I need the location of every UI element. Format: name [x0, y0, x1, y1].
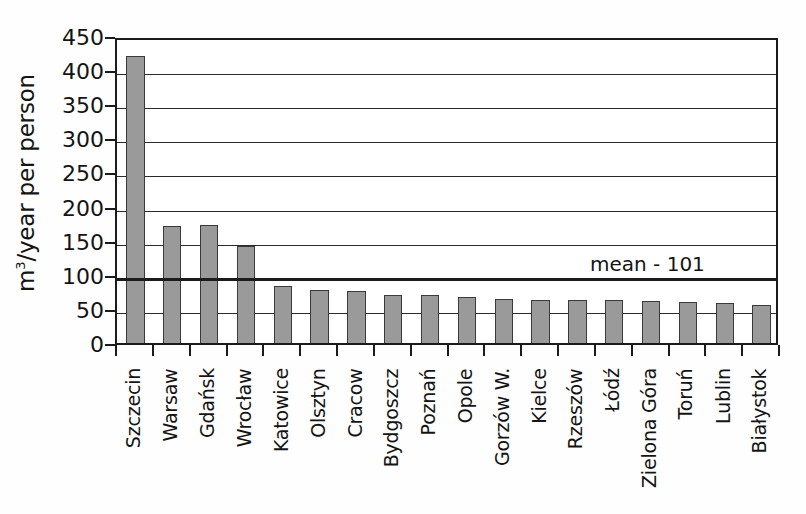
y-axis-tick-mark: [105, 105, 115, 107]
bar: [605, 300, 623, 343]
y-axis-tick-label: 0: [44, 334, 104, 356]
x-axis-category-label-text: Bydgoszcz: [380, 368, 402, 467]
y-axis-title-text: m3/year per person: [13, 74, 39, 292]
mean-line: [117, 278, 776, 281]
y-axis-tick-mark: [105, 71, 115, 73]
x-axis-tick-mark: [668, 345, 670, 356]
x-axis-category-label-text: Gorzów W.: [491, 368, 513, 466]
bar: [679, 302, 697, 343]
x-axis-category-label-text: Białystok: [749, 368, 771, 453]
y-axis-tick-label: 400: [44, 61, 104, 83]
y-axis-tick-mark: [105, 37, 115, 39]
x-axis-category-label: Opole: [447, 357, 484, 507]
y-axis-tick-label: 300: [44, 129, 104, 151]
x-axis-tick-mark: [447, 345, 449, 356]
x-axis-category-label: Cracow: [336, 357, 373, 507]
x-axis-category-label-text: Zielona Góra: [638, 368, 660, 488]
y-axis-tick-label: 150: [44, 232, 104, 254]
x-axis-tick-mark: [741, 345, 743, 356]
y-axis-title: m3/year per person: [6, 18, 46, 348]
x-axis-category-label: Gorzów W.: [483, 357, 520, 507]
y-axis-tick-label: 350: [44, 95, 104, 117]
x-axis-tick-marks: [115, 345, 778, 357]
x-axis-category-label: Katowice: [262, 357, 299, 507]
bar: [495, 299, 513, 343]
x-axis-category-label-text: Opole: [454, 368, 476, 423]
x-axis-tick-mark: [299, 345, 301, 356]
bar: [568, 300, 586, 343]
x-axis-tick-mark: [373, 345, 375, 356]
x-axis-tick-mark: [152, 345, 154, 356]
x-axis-category-label-text: Kielce: [528, 368, 550, 424]
x-axis-tick-mark: [520, 345, 522, 356]
bar: [458, 297, 476, 343]
bar: [384, 295, 402, 343]
bars-layer: [117, 40, 776, 343]
bar: [752, 305, 770, 343]
x-axis-category-label: Białystok: [741, 357, 778, 507]
bar: [347, 291, 365, 343]
x-axis-category-label: Zielona Góra: [631, 357, 668, 507]
x-axis-category-label-text: Lublin: [712, 368, 734, 424]
y-axis-title-prefix: m: [13, 270, 39, 292]
y-axis-tick-labels: 050100150200250300350400450: [44, 0, 104, 514]
x-axis-category-label-text: Warsaw: [159, 368, 181, 441]
y-axis-tick-mark: [105, 310, 115, 312]
x-axis-tick-mark: [189, 345, 191, 356]
x-axis-category-label: Olsztyn: [299, 357, 336, 507]
x-axis-category-label: Poznań: [410, 357, 447, 507]
y-axis-tick-mark: [105, 276, 115, 278]
y-axis-tick-label: 450: [44, 27, 104, 49]
bar: [237, 246, 255, 343]
bar: [716, 303, 734, 343]
x-axis-category-label: Gdańsk: [189, 357, 226, 507]
x-axis-tick-mark: [557, 345, 559, 356]
bar-chart: m3/year per person 050100150200250300350…: [0, 0, 806, 514]
y-axis-tick-label: 250: [44, 163, 104, 185]
y-axis-tick-label: 50: [44, 300, 104, 322]
x-axis-tick-mark: [483, 345, 485, 356]
x-axis-category-label-text: Gdańsk: [196, 368, 218, 438]
x-axis-category-label: Kielce: [520, 357, 557, 507]
x-axis-category-label: Łódź: [594, 357, 631, 507]
x-axis-category-label-text: Olsztyn: [307, 368, 329, 437]
bar: [126, 56, 144, 343]
y-axis-tick-mark: [105, 242, 115, 244]
bar: [421, 295, 439, 343]
x-axis-tick-mark: [336, 345, 338, 356]
y-axis-tick-mark: [105, 173, 115, 175]
x-axis-tick-mark: [631, 345, 633, 356]
x-axis-tick-mark: [778, 345, 780, 356]
y-axis-tick-mark: [105, 139, 115, 141]
bar: [200, 225, 218, 343]
x-axis-category-label: Rzeszów: [557, 357, 594, 507]
x-axis-category-label-text: Cracow: [343, 368, 365, 437]
bar: [310, 290, 328, 343]
bar: [642, 301, 660, 343]
plot-area: mean - 101: [115, 38, 778, 345]
mean-line-label: mean - 101: [590, 252, 705, 276]
x-axis-category-label: Lublin: [704, 357, 741, 507]
x-axis-category-label: Bydgoszcz: [373, 357, 410, 507]
x-axis-tick-mark: [115, 345, 117, 356]
x-axis-category-label: Wrocław: [226, 357, 263, 507]
x-axis-category-label: Warsaw: [152, 357, 189, 507]
x-axis-category-label-text: Katowice: [270, 368, 292, 452]
x-axis-tick-mark: [262, 345, 264, 356]
x-axis-category-label-text: Rzeszów: [564, 368, 586, 449]
y-axis-tick-mark: [105, 208, 115, 210]
x-axis-category-label-text: Wrocław: [233, 368, 255, 447]
x-axis-category-label-text: Poznań: [417, 368, 439, 435]
x-axis-category-label-text: Szczecin: [122, 368, 144, 448]
y-axis-title-suffix: /year per person: [13, 74, 39, 262]
x-axis-tick-mark: [410, 345, 412, 356]
x-axis-category-label-text: Toruń: [675, 368, 697, 419]
y-axis-tick-mark: [105, 344, 115, 346]
x-axis-tick-mark: [594, 345, 596, 356]
x-axis-category-label: Szczecin: [115, 357, 152, 507]
y-axis-title-superscript: 3: [13, 262, 28, 270]
y-axis-tick-label: 200: [44, 198, 104, 220]
x-axis-tick-mark: [226, 345, 228, 356]
bar: [531, 300, 549, 343]
y-axis-tick-label: 100: [44, 266, 104, 288]
